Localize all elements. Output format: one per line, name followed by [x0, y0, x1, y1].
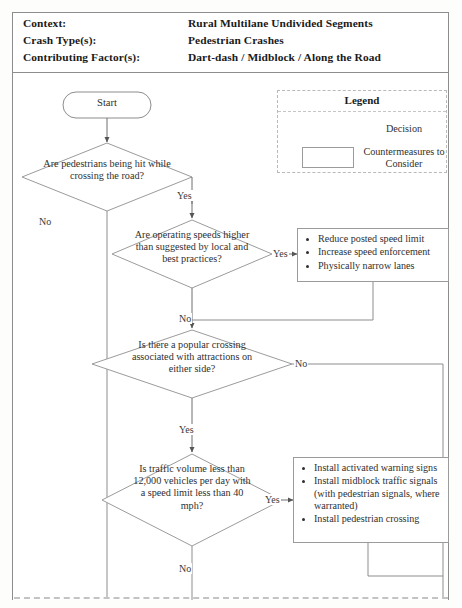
- start-node-label: Start: [63, 97, 151, 108]
- edge-label-d4-no: No: [178, 563, 192, 574]
- header-value-contributing-factor: Dart-dash / Midblock / Along the Road: [188, 51, 381, 63]
- legend-countermeasure-label: Countermeasures to Consider: [362, 146, 446, 170]
- legend-decision-label: Decision: [366, 123, 442, 135]
- legend-separator: [278, 111, 446, 112]
- header-label-context: Context:: [23, 17, 66, 29]
- edge-label-d4-yes: Yes: [264, 494, 281, 505]
- edge-label-d1-yes: Yes: [176, 190, 193, 201]
- countermeasure-item: Physically narrow lanes: [318, 260, 442, 272]
- countermeasure-item: Reduce posted speed limit: [318, 233, 442, 245]
- header-label-contributing-factor: Contributing Factor(s):: [23, 51, 140, 63]
- flowchart-page: Context: Rural Multilane Undivided Segme…: [0, 0, 462, 608]
- header-row-crash-type: Crash Type(s): Pedestrian Crashes: [12, 34, 449, 52]
- countermeasure-box-2: Install activated warning signs Install …: [293, 457, 449, 543]
- countermeasure-list-2: Install activated warning signs Install …: [294, 458, 448, 530]
- header-label-crash-type: Crash Type(s):: [23, 34, 96, 46]
- countermeasure-item: Install activated warning signs: [314, 462, 442, 474]
- header-row-contributing-factor: Contributing Factor(s): Dart-dash / Midb…: [12, 51, 449, 69]
- edge-label-d1-no: No: [38, 216, 52, 227]
- edge-label-d3-yes: Yes: [178, 424, 195, 435]
- header-value-context: Rural Multilane Undivided Segments: [188, 17, 373, 29]
- countermeasure-box-1: Reduce posted speed limit Increase speed…: [297, 228, 449, 282]
- countermeasure-list-1: Reduce posted speed limit Increase speed…: [298, 229, 448, 277]
- header-row-context: Context: Rural Multilane Undivided Segme…: [12, 17, 449, 35]
- countermeasure-item: Increase speed enforcement: [318, 246, 442, 258]
- edge-label-d2-no: No: [178, 313, 192, 324]
- countermeasure-item: Install midblock traffic signals (with p…: [314, 475, 442, 512]
- edge-label-d3-no: No: [294, 358, 308, 369]
- edge-label-d2-yes: Yes: [272, 248, 289, 259]
- header-value-crash-type: Pedestrian Crashes: [188, 34, 284, 46]
- countermeasure-item: Install pedestrian crossing: [314, 513, 442, 525]
- legend-title: Legend: [278, 94, 446, 106]
- header-block: Context: Rural Multilane Undivided Segme…: [12, 12, 449, 73]
- page-cut-dashed-line: [14, 597, 448, 599]
- legend-countermeasure-glyph: [302, 147, 354, 168]
- legend-box: Legend Decision Countermeasures to Consi…: [277, 90, 447, 173]
